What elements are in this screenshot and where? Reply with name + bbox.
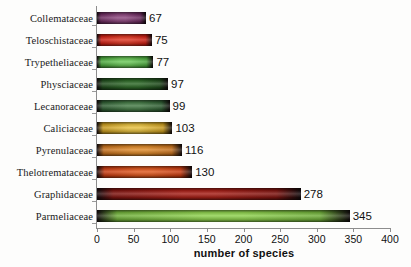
bar-value-label: 77 — [156, 56, 169, 68]
bar-value-label: 130 — [195, 166, 214, 178]
bar — [97, 34, 152, 46]
x-tick — [97, 228, 98, 232]
x-tick — [353, 228, 354, 232]
x-tick-label: 350 — [345, 233, 363, 245]
bar-value-label: 103 — [175, 122, 194, 134]
bar-value-label: 99 — [173, 100, 186, 112]
category-label: Caliciaceae — [44, 123, 93, 134]
bar-row: Lecanoraceae99 — [0, 95, 411, 117]
bar — [97, 210, 350, 222]
bar-container: 278 — [97, 188, 323, 200]
bar — [97, 188, 301, 200]
x-tick-label: 200 — [235, 233, 253, 245]
bar-row: Caliciaceae103 — [0, 117, 411, 139]
x-tick — [134, 228, 135, 232]
bar-container: 75 — [97, 34, 168, 46]
bar-container: 116 — [97, 144, 203, 156]
bar-value-label: 67 — [149, 12, 162, 24]
bar — [97, 122, 172, 134]
x-tick-label: 50 — [128, 233, 140, 245]
category-label: Trypetheliaceae — [25, 57, 93, 68]
bar-row: Collemataceae67 — [0, 7, 411, 29]
y-tick — [92, 113, 96, 114]
bar — [97, 78, 168, 90]
x-tick — [207, 228, 208, 232]
x-tick-label: 150 — [198, 233, 216, 245]
category-label: Collemataceae — [30, 13, 93, 24]
bar-row: Thelotremataceae130 — [0, 161, 411, 183]
x-tick — [317, 228, 318, 232]
y-tick — [92, 91, 96, 92]
bar-row: Pyrenulaceae116 — [0, 139, 411, 161]
category-label: Teloschistaceae — [26, 35, 93, 46]
y-tick — [92, 179, 96, 180]
bar — [97, 166, 192, 178]
x-tick — [244, 228, 245, 232]
category-label: Parmeliaceae — [36, 211, 93, 222]
bar-container: 67 — [97, 12, 162, 24]
x-tick-label: 400 — [381, 233, 399, 245]
bar-value-label: 278 — [304, 188, 323, 200]
bar-container: 130 — [97, 166, 214, 178]
bar-container: 77 — [97, 56, 169, 68]
bar-container: 97 — [97, 78, 184, 90]
y-tick — [92, 157, 96, 158]
y-tick — [92, 135, 96, 136]
y-tick — [92, 201, 96, 202]
category-label: Graphidaceae — [34, 189, 93, 200]
x-tick-label: 100 — [161, 233, 179, 245]
x-tick — [170, 228, 171, 232]
x-axis-title: number of species — [97, 247, 391, 259]
x-tick-label: 300 — [308, 233, 326, 245]
category-label: Pyrenulaceae — [36, 145, 93, 156]
x-tick-label: 250 — [271, 233, 289, 245]
bar — [97, 100, 170, 112]
bar-value-label: 97 — [171, 78, 184, 90]
bar — [97, 144, 182, 156]
x-tick — [390, 228, 391, 232]
bar-row: Trypetheliaceae77 — [0, 51, 411, 73]
category-label: Lecanoraceae — [34, 101, 93, 112]
bar-value-label: 116 — [185, 144, 203, 156]
bar-container: 103 — [97, 122, 195, 134]
category-label: Physciaceae — [41, 79, 93, 90]
bar — [97, 56, 153, 68]
y-tick — [92, 25, 96, 26]
bar-value-label: 345 — [353, 210, 372, 222]
x-tick-label: 0 — [94, 233, 100, 245]
bar-container: 99 — [97, 100, 185, 112]
bar-row: Physciaceae97 — [0, 73, 411, 95]
y-tick — [92, 47, 96, 48]
bar-value-label: 75 — [155, 34, 168, 46]
bar-row: Graphidaceae278 — [0, 183, 411, 205]
bar-row: Teloschistaceae75 — [0, 29, 411, 51]
plot-area: Collemataceae67Teloschistaceae75Trypethe… — [0, 0, 411, 267]
bar-container: 345 — [97, 210, 372, 222]
species-bar-chart: Collemataceae67Teloschistaceae75Trypethe… — [0, 0, 411, 267]
bar — [97, 12, 146, 24]
bar-row: Parmeliaceae345 — [0, 205, 411, 227]
y-tick — [92, 69, 96, 70]
x-tick — [280, 228, 281, 232]
category-label: Thelotremataceae — [17, 167, 93, 178]
y-tick — [92, 223, 96, 224]
